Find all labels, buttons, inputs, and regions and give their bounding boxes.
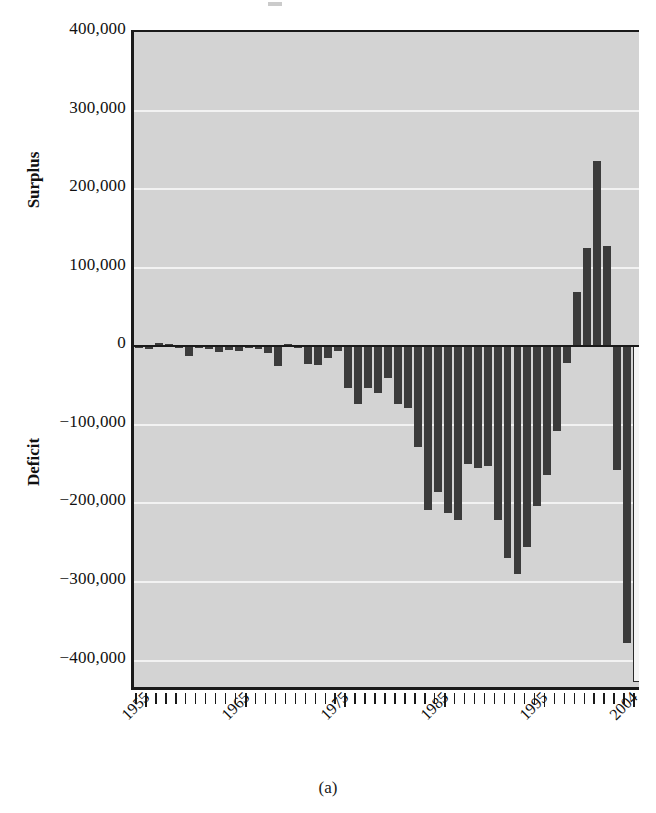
bar-1978 [374,346,382,393]
zero-baseline [134,345,639,347]
x-tick-1969 [285,693,286,704]
figure-caption: (a) [0,778,656,798]
bar-1968 [274,346,282,366]
bar-1985 [444,346,452,513]
y-tick-label--200000: −200,000 [0,490,126,510]
x-tick-1998 [574,693,575,704]
bar-1983 [424,346,432,509]
bar-1980 [394,346,402,404]
y-tick-label--400000: −400,000 [0,648,126,668]
x-tick-2000 [593,693,594,704]
x-tick-1996 [554,693,555,704]
bar-1959 [185,346,193,356]
bar-1975 [344,346,352,388]
x-tick-1981 [404,693,405,704]
x-tick-1982 [414,693,415,704]
x-tick-1957 [165,693,166,704]
x-tick-1979 [384,693,385,704]
bar-2000 [593,161,601,347]
x-tick-1966 [255,693,256,704]
bar-series [134,32,639,687]
x-tick-1956 [155,693,156,704]
x-tick-1980 [394,693,395,704]
x-tick-2001 [603,693,604,704]
bar-1999 [583,248,591,347]
bar-1971 [304,346,312,364]
bar-1992 [514,346,522,574]
bar-1989 [484,346,492,466]
x-tick-1986 [454,693,455,704]
bar-1987 [464,346,472,464]
bar-1994 [533,346,541,506]
y-tick-label--300000: −300,000 [0,569,126,589]
x-axis-tick-labels: 195519651975198519952004 [0,707,656,767]
x-tick-1987 [464,693,465,704]
bar-1995 [543,346,551,475]
y-tick-label-0: 0 [0,333,126,353]
x-tick-1962 [215,693,216,704]
x-tick-1971 [305,693,306,704]
bar-1997 [563,346,571,363]
x-tick-1967 [265,693,266,704]
y-tick-label--100000: −100,000 [0,412,126,432]
x-tick-1991 [504,693,505,704]
bar-1998 [573,292,581,346]
x-tick-1968 [275,693,276,704]
bar-1967 [264,346,272,353]
x-tick-1978 [374,693,375,704]
x-tick-1959 [185,693,186,704]
x-tick-1970 [295,693,296,704]
plot-area [131,30,639,690]
bar-1991 [504,346,512,558]
x-tick-1997 [564,693,565,704]
budget-surplus-deficit-figure: 400,000300,000200,000100,0000−100,000−20… [0,0,656,813]
bar-1988 [474,346,482,468]
x-tick-1958 [175,693,176,704]
x-tick-1988 [474,693,475,704]
x-tick-1977 [364,693,365,704]
y-axis-tick-labels: 400,000300,000200,000100,0000−100,000−20… [0,0,126,813]
x-tick-1992 [514,693,515,704]
bar-1993 [523,346,531,546]
y-tick-label-300000: 300,000 [0,98,126,118]
x-tick-1972 [315,693,316,704]
x-tick-1990 [494,693,495,704]
bar-1979 [384,346,392,378]
bar-2004 [633,346,639,682]
x-tick-1989 [484,693,485,704]
bar-1972 [314,346,322,364]
x-tick-1976 [354,693,355,704]
bar-2003 [623,346,631,643]
bar-1986 [454,346,462,520]
x-axis-ticks [131,693,639,707]
y-axis-surplus-label: Surplus [24,152,44,209]
bar-1990 [494,346,502,520]
bar-1982 [414,346,422,447]
bar-2001 [603,246,611,347]
bar-1976 [354,346,362,404]
y-axis-deficit-label: Deficit [24,438,44,486]
bar-1977 [364,346,372,388]
bar-1984 [434,346,442,492]
bar-1981 [404,346,412,408]
y-tick-label-100000: 100,000 [0,255,126,275]
x-tick-1961 [205,693,206,704]
x-tick-1999 [584,693,585,704]
scan-artifact [268,2,282,6]
y-tick-label-200000: 200,000 [0,176,126,196]
bar-1973 [324,346,332,358]
bar-1996 [553,346,561,430]
y-tick-label-400000: 400,000 [0,19,126,39]
bar-2002 [613,346,621,470]
x-tick-1960 [195,693,196,704]
